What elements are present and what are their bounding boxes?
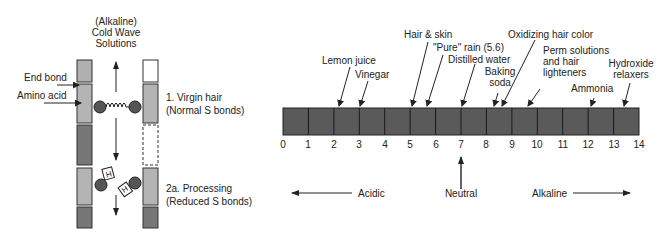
tick-label: 11 (554, 139, 572, 150)
tick-label: 1 (301, 139, 315, 150)
tick-label: 0 (276, 139, 290, 150)
tick-label: 5 (403, 139, 417, 150)
solution-title: (Alkaline) Cold Wave Solutions (88, 16, 144, 49)
annotation-ammonia: Ammonia (571, 83, 613, 94)
label-line: Perm solutions (543, 45, 609, 56)
stage-subtitle: (Normal S bonds) (166, 105, 244, 116)
title-line: Solutions (88, 38, 144, 49)
amino-acid-label: Amino acid (17, 90, 66, 101)
right-strand (143, 60, 158, 228)
title-line: (Alkaline) (88, 16, 144, 27)
label-line: relaxers (603, 69, 659, 80)
stage-title: 2a. Processing (166, 183, 252, 194)
tick-label: 3 (352, 139, 366, 150)
annotation-lemon-juice: Lemon juice (322, 55, 376, 66)
left-strand (77, 60, 92, 228)
ph-bar (283, 108, 639, 135)
annotation-pure-rain: "Pure" rain (5.6) (433, 42, 504, 53)
tick-label: 6 (429, 139, 443, 150)
alkaline-label: Alkaline (532, 188, 567, 199)
tick-label: 2 (327, 139, 341, 150)
stage-subtitle: (Reduced S bonds) (166, 196, 252, 207)
tick-label: 13 (605, 139, 623, 150)
tick-label: 9 (505, 139, 519, 150)
tick-label: 4 (378, 139, 392, 150)
label-line: and hair (543, 56, 609, 67)
tick-label: 8 (479, 139, 493, 150)
tick-label: 10 (528, 139, 546, 150)
end-bond-label: End bond (24, 72, 67, 83)
annotation-hydroxide-relaxers: Hydroxide relaxers (603, 58, 659, 80)
title-line: Cold Wave (88, 27, 144, 38)
tick-label: 12 (579, 139, 597, 150)
neutral-label: Neutral (436, 188, 486, 199)
label-line: Hydroxide (603, 58, 659, 69)
annotation-oxidizing-hair-color: Oxidizing hair color (508, 29, 593, 40)
annotation-distilled-water: Distilled water (448, 54, 510, 65)
stage-processing: 2a. Processing (Reduced S bonds) (166, 183, 252, 207)
label-line: Baking (480, 66, 520, 77)
annotation-baking-soda: Baking soda (480, 66, 520, 88)
annotation-vinegar: Vinegar (355, 69, 389, 80)
label-line: soda (480, 77, 520, 88)
label-line: lighteners (543, 67, 609, 78)
tick-label: 7 (454, 139, 468, 150)
reduced-bonds (95, 167, 141, 197)
stage-virgin-hair: 1. Virgin hair (Normal S bonds) (166, 92, 244, 116)
tick-label: 14 (630, 139, 648, 150)
annotation-hair-skin: Hair & skin (404, 29, 452, 40)
stage-title: 1. Virgin hair (166, 92, 244, 103)
acidic-label: Acidic (358, 188, 385, 199)
disulfide-bond (94, 101, 141, 113)
annotation-perm-solutions: Perm solutions and hair lighteners (543, 45, 609, 78)
